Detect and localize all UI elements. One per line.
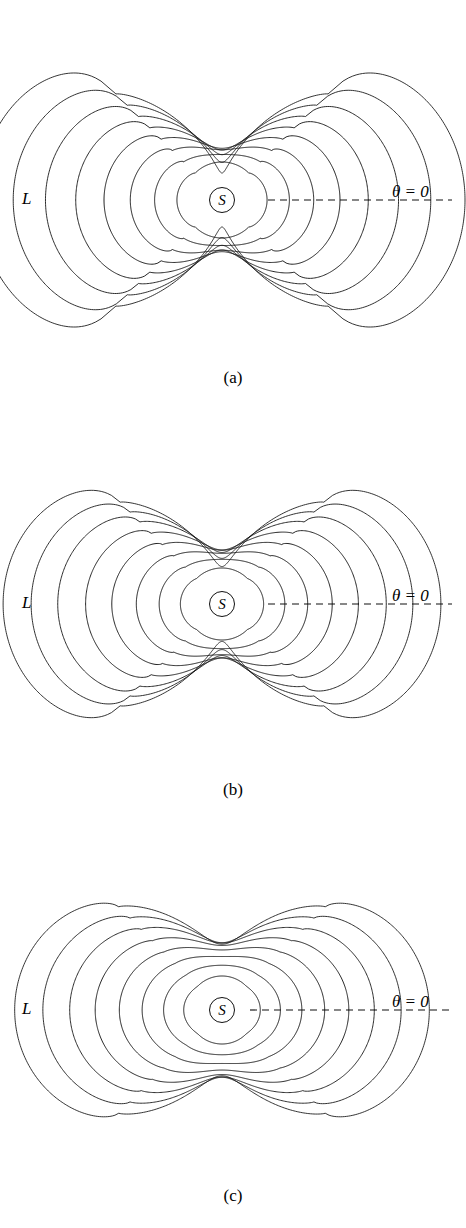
contour-svg bbox=[0, 0, 466, 420]
panel-c-plot bbox=[0, 815, 466, 1228]
panel-a-plot bbox=[0, 0, 466, 420]
panel-b-source-marker: S bbox=[209, 591, 235, 617]
panel-b-theta-label: θ = 0 bbox=[392, 587, 429, 604]
panel-a-label-L: L bbox=[22, 190, 31, 207]
panel-c-theta-label: θ = 0 bbox=[392, 993, 429, 1010]
panel-c-label-L: L bbox=[22, 1000, 31, 1017]
contour-figure: L S θ = 0 (a) L S θ = 0 (b) L S θ = 0 (c… bbox=[0, 0, 466, 1228]
panel-a-caption: (a) bbox=[0, 368, 466, 388]
panel-a-source-marker: S bbox=[209, 187, 235, 213]
contour-svg bbox=[0, 815, 466, 1228]
contour-svg bbox=[0, 410, 466, 830]
panel-c-caption: (c) bbox=[0, 1186, 466, 1206]
panel-c-source-marker: S bbox=[209, 997, 235, 1023]
panel-b-caption: (b) bbox=[0, 780, 466, 800]
panel-a-theta-label: θ = 0 bbox=[392, 183, 429, 200]
panel-b-plot bbox=[0, 410, 466, 830]
panel-b-label-L: L bbox=[22, 594, 31, 611]
